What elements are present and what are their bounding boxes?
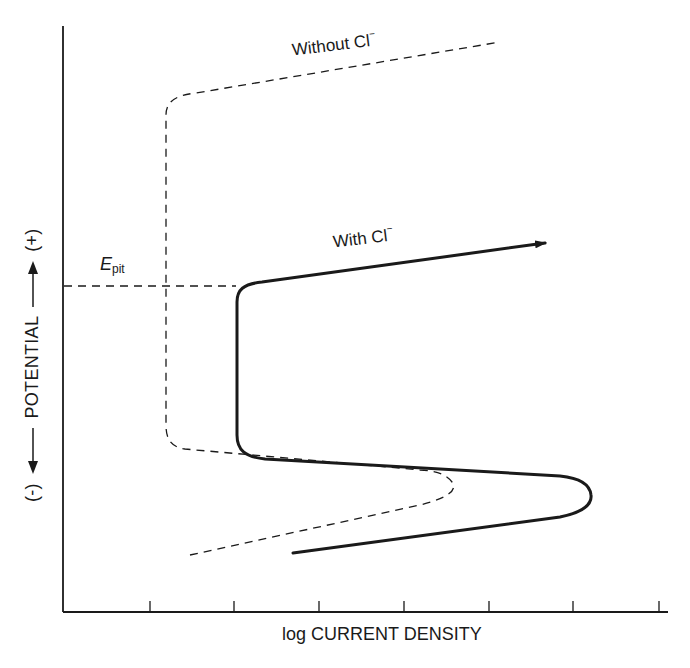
arrow-down-icon bbox=[23, 428, 44, 474]
curve-without-cl bbox=[166, 42, 500, 555]
plot-area bbox=[0, 0, 690, 668]
epit-main: E bbox=[100, 254, 112, 274]
epit-sub: pit bbox=[112, 262, 125, 276]
label-without-cl-sup: − bbox=[368, 28, 375, 40]
y-axis-label: (-) POTENTIAL (+) bbox=[22, 228, 44, 502]
y-axis-pos: (+) bbox=[22, 228, 42, 251]
y-axis-title: POTENTIAL bbox=[22, 316, 42, 418]
axes bbox=[63, 26, 668, 612]
x-ticks bbox=[150, 601, 659, 612]
y-axis-neg: (-) bbox=[22, 483, 42, 502]
arrow-up-icon bbox=[23, 261, 44, 307]
polarization-diagram: Without Cl− With Cl− Epit log CURRENT DE… bbox=[0, 0, 690, 668]
x-axis-label: log CURRENT DENSITY bbox=[282, 624, 482, 645]
epit-label: Epit bbox=[100, 254, 125, 275]
label-with-cl-sup: − bbox=[386, 223, 393, 235]
